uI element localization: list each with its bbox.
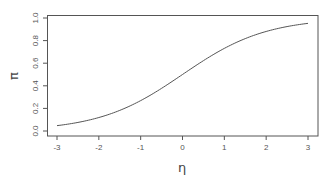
x-tick-label: 0	[180, 143, 185, 152]
x-axis: -3-2-10123	[53, 136, 310, 152]
y-axis: 0.00.20.40.60.81.0	[31, 12, 47, 137]
y-tick-label: 0.2	[31, 102, 40, 114]
x-axis-title: η	[178, 160, 186, 175]
y-axis-title: π	[6, 72, 21, 80]
logistic-curve	[57, 23, 308, 125]
logistic-chart: -3-2-10123 0.00.20.40.60.81.0 η π	[0, 0, 328, 184]
x-tick-label: -3	[53, 143, 61, 152]
y-tick-label: 0.0	[31, 125, 40, 137]
x-tick-label: 3	[306, 143, 311, 152]
y-tick-label: 0.8	[31, 34, 40, 46]
plot-frame	[48, 16, 319, 137]
y-tick-label: 0.4	[31, 80, 40, 92]
x-tick-label: -2	[95, 143, 103, 152]
y-tick-label: 1.0	[31, 12, 40, 24]
x-tick-label: 1	[222, 143, 227, 152]
y-tick-label: 0.6	[31, 57, 40, 69]
x-tick-label: 2	[264, 143, 269, 152]
x-tick-label: -1	[137, 143, 145, 152]
